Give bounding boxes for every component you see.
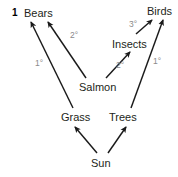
arrow-sun-to-trees — [108, 127, 126, 153]
node-label-bears: Bears — [24, 7, 53, 19]
node-label-grass: Grass — [61, 111, 90, 123]
node-label-insects: Insects — [112, 38, 147, 50]
level-label-grass-bears: 2° — [70, 31, 78, 40]
node-label-salmon: Salmon — [79, 81, 116, 93]
node-label-sun: Sun — [91, 157, 111, 169]
level-label-trees-birds: 1° — [153, 57, 161, 66]
arrow-insects-to-birds — [136, 20, 152, 34]
node-label-birds: Birds — [147, 5, 172, 17]
level-label-salmon-bears: 1° — [35, 59, 43, 68]
food-web-diagram: 1 Bears Birds Insects Salmon Grass Trees… — [0, 0, 178, 177]
level-label-insects-birds: 3° — [129, 20, 137, 29]
node-label-trees: Trees — [109, 111, 137, 123]
figure-number: 1 — [12, 7, 18, 18]
arrow-sun-to-grass — [75, 127, 97, 153]
level-label-salmon-insects: 2° — [116, 61, 124, 70]
